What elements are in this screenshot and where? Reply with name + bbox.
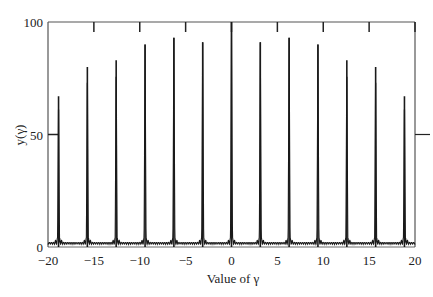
chart: −20−15−10−505101520 050100 Value of γ y(… <box>0 0 433 297</box>
x-tick-label: 10 <box>317 253 330 268</box>
axis-ticks <box>48 22 430 135</box>
y-axis-title: y(γ) <box>12 125 27 146</box>
y-tick-label: 100 <box>24 15 44 30</box>
x-tick-label: −20 <box>38 253 58 268</box>
x-tick-label: −15 <box>84 253 104 268</box>
series-lines <box>48 22 415 247</box>
y-tick-label: 50 <box>30 128 43 143</box>
x-axis-title: Value of γ <box>207 271 260 286</box>
x-tick-label: −10 <box>130 253 150 268</box>
x-tick-label: −5 <box>179 253 193 268</box>
x-tick-label: 5 <box>274 253 281 268</box>
x-tick-label: 15 <box>363 253 376 268</box>
x-tick-labels: −20−15−10−505101520 <box>38 253 422 268</box>
x-tick-label: 0 <box>228 253 235 268</box>
y-tick-label: 0 <box>37 240 44 255</box>
x-tick-label: 20 <box>409 253 422 268</box>
